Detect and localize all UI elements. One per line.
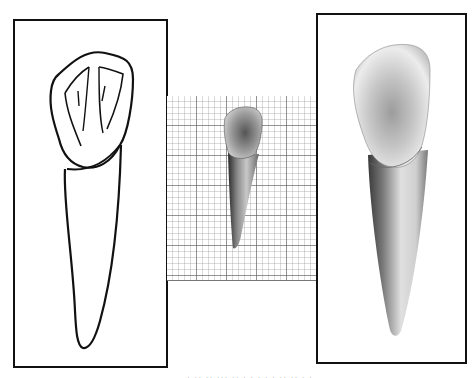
tooth-outline-drawing <box>15 21 170 370</box>
line-drawing-panel <box>13 19 168 368</box>
figure-caption: · ·· ·· ··· ·· · · · · · ·· ·· · · <box>150 370 350 378</box>
tooth-shaded-illustration <box>318 15 469 366</box>
millimeter-grid-panel <box>167 96 317 281</box>
shaded-rendering-panel <box>316 13 467 364</box>
tooth-photo <box>167 96 317 280</box>
